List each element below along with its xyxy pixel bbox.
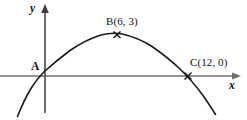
point-b-marker bbox=[114, 32, 121, 39]
y-axis bbox=[41, 4, 49, 113]
x-axis-label: x bbox=[229, 80, 235, 92]
x-axis bbox=[0, 72, 241, 79]
parabola-curve bbox=[18, 33, 216, 116]
point-label-b: B(6, 3) bbox=[106, 16, 138, 27]
y-axis-label: y bbox=[30, 3, 35, 15]
y-axis-arrowhead bbox=[41, 4, 49, 13]
parabola-coordinate-diagram: A B(6, 3) C(12, 0) y x bbox=[0, 0, 247, 120]
point-label-a: A bbox=[31, 61, 39, 73]
point-label-c: C(12, 0) bbox=[190, 57, 227, 68]
